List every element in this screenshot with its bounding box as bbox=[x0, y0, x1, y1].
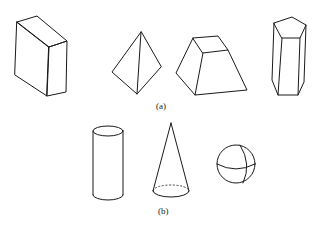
panel-b-label: (b) bbox=[158, 206, 169, 216]
cylinder bbox=[93, 126, 123, 200]
cone bbox=[153, 123, 189, 197]
panel-a-label: (a) bbox=[156, 101, 166, 111]
triangular-pyramid bbox=[112, 32, 161, 94]
frustum bbox=[176, 36, 247, 95]
rectangular-prism bbox=[15, 16, 67, 96]
geometric-solids-figure: (a) (b) bbox=[0, 0, 320, 236]
pentagonal-prism bbox=[272, 17, 306, 95]
sphere bbox=[217, 145, 255, 183]
